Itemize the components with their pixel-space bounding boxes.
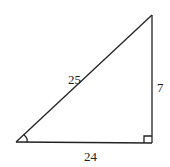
hypotenuse-side	[16, 15, 152, 142]
vertical-leg-label: 7	[157, 81, 164, 94]
right-angle-marker	[144, 136, 152, 143]
base-side	[16, 142, 152, 143]
base-label: 24	[84, 150, 97, 163]
angle-arc-marker	[24, 135, 27, 142]
hypotenuse-label: 25	[68, 73, 81, 86]
triangle-diagram	[0, 0, 170, 167]
